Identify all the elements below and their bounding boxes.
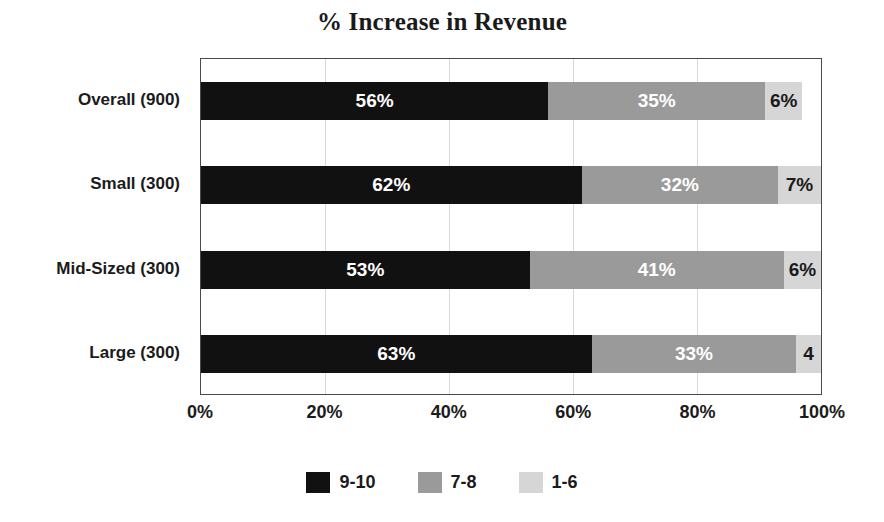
bar-segment-label: 53%: [345, 259, 385, 281]
x-axis-tick-labels: 0%20%40%60%80%100%: [200, 402, 822, 430]
bar-row: 53%41%6%: [201, 251, 821, 289]
x-tick-label: 60%: [555, 402, 591, 423]
bar-segment: 63%: [201, 335, 592, 373]
bar-segment: 35%: [548, 82, 765, 120]
bar-row: 63%33%4: [201, 335, 821, 373]
legend-swatch-icon: [519, 472, 543, 493]
bar-segment: 53%: [201, 251, 530, 289]
bar-segment-label: 56%: [355, 90, 395, 112]
plot-area: 56%35%6%62%32%7%53%41%6%63%33%4: [200, 58, 822, 395]
bar-segment: 6%: [765, 82, 802, 120]
x-tick-label: 0%: [187, 402, 213, 423]
bar-segment: 7%: [778, 166, 821, 204]
bar-segment: 56%: [201, 82, 548, 120]
bar-segment-label: 6%: [769, 90, 798, 112]
y-axis-category-labels: Overall (900)Small (300)Mid-Sized (300)L…: [0, 58, 190, 395]
bar-segment-label: 32%: [660, 174, 700, 196]
x-tick-label: 40%: [431, 402, 467, 423]
y-axis-label: Small (300): [90, 165, 180, 203]
bar-segment-label: 6%: [788, 259, 817, 281]
chart-legend: 9-107-81-6: [0, 472, 884, 493]
bar-segment-label: 35%: [637, 90, 677, 112]
bar-segment-label: 62%: [371, 174, 411, 196]
bar-segment: 33%: [592, 335, 797, 373]
bar-row: 56%35%6%: [201, 82, 821, 120]
bar-segment: 41%: [530, 251, 784, 289]
x-tick-label: 80%: [680, 402, 716, 423]
legend-swatch-icon: [418, 472, 442, 493]
bar-segment-label: 7%: [785, 174, 814, 196]
bar-segment-label: 4: [802, 343, 815, 365]
bar-segment: 62%: [201, 166, 582, 204]
stacked-bars: 56%35%6%62%32%7%53%41%6%63%33%4: [201, 59, 821, 394]
y-axis-label: Overall (900): [78, 81, 180, 119]
bar-row: 62%32%7%: [201, 166, 821, 204]
legend-item[interactable]: 7-8: [418, 472, 477, 493]
legend-label: 1-6: [552, 472, 578, 493]
chart-page: % Increase in Revenue Overall (900)Small…: [0, 0, 884, 522]
legend-label: 9-10: [339, 472, 375, 493]
legend-item[interactable]: 9-10: [306, 472, 375, 493]
legend-swatch-icon: [306, 472, 330, 493]
bar-segment-label: 33%: [674, 343, 714, 365]
x-tick-label: 20%: [306, 402, 342, 423]
bar-segment-label: 63%: [376, 343, 416, 365]
page-title: % Increase in Revenue: [0, 8, 884, 36]
y-axis-label: Large (300): [89, 334, 180, 372]
bar-segment: 6%: [784, 251, 821, 289]
bar-segment: 32%: [582, 166, 778, 204]
bar-segment-label: 41%: [637, 259, 677, 281]
x-tick-label: 100%: [799, 402, 845, 423]
y-axis-label: Mid-Sized (300): [56, 250, 180, 288]
bar-segment: 4: [796, 335, 821, 373]
legend-label: 7-8: [451, 472, 477, 493]
legend-item[interactable]: 1-6: [519, 472, 578, 493]
